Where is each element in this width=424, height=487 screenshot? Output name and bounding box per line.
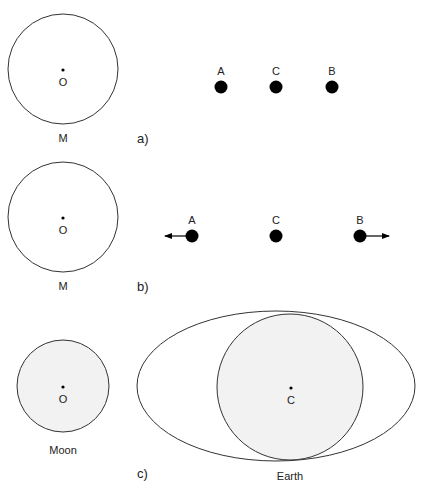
panel-tag-b: b) [137,279,149,294]
center-label-o: O [59,224,68,236]
earth-center-label: C [287,394,295,406]
center-label-o: O [59,76,68,88]
point-dot-b [354,230,367,243]
point-b: B [354,214,390,243]
panel-a: O M a) A C B [8,14,339,146]
point-dot-c [270,81,283,94]
center-dot [61,216,64,219]
point-label-a: A [217,65,225,77]
point-dot-a [186,230,199,243]
point-a: A [165,214,199,243]
point-label-c: C [272,65,280,77]
point-c: C [270,65,283,94]
earth-label: Earth [277,470,303,482]
point-dot-a [215,81,228,94]
tidal-diagram: O M a) A C B O M b) A C B [0,0,424,487]
panel-b: O M b) A C B [8,162,389,294]
point-dot-c [270,230,283,243]
point-label-a: A [188,214,196,226]
point-dot-b [326,81,339,94]
center-dot [61,68,64,71]
point-label-b: B [328,65,335,77]
panel-tag-c: c) [137,466,148,481]
point-a: A [215,65,228,94]
panel-tag-a: a) [137,131,149,146]
point-c: C [270,214,283,243]
body-label-m: M [58,132,67,144]
point-label-c: C [272,214,280,226]
moon-center-dot [61,385,64,388]
moon-center-label: O [59,393,68,405]
point-label-b: B [356,214,363,226]
body-label-m: M [58,280,67,292]
moon-label: Moon [49,444,77,456]
point-b: B [326,65,339,94]
panel-c: O Moon C Earth c) [17,311,415,482]
earth-center-dot [289,386,292,389]
